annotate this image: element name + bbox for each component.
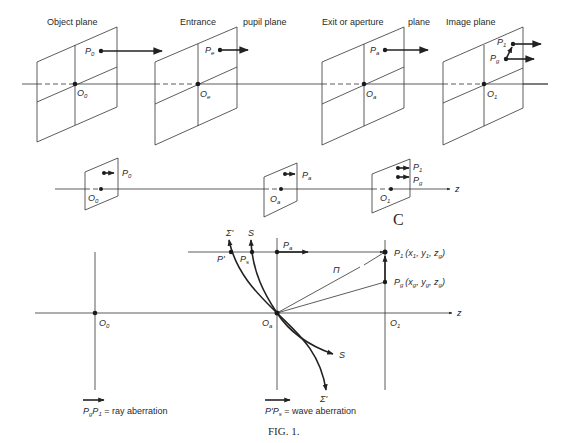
entrance-pupil-plane: Entrance pupil plane Pe Oe xyxy=(155,17,287,145)
p-prime-dot xyxy=(229,250,233,254)
svg-text:Pa: Pa xyxy=(283,240,293,251)
svg-text:O0: O0 xyxy=(99,318,110,329)
small-aperture-plane: Pa Oa xyxy=(264,163,312,217)
p1-dot xyxy=(383,250,388,255)
p-prime-label: P' xyxy=(217,254,225,264)
s-top-label: S xyxy=(248,228,254,238)
oa-dot xyxy=(275,311,280,316)
pg-dot xyxy=(383,280,387,284)
wave-aberration-legend: P'Ps = wave aberration xyxy=(265,406,356,417)
svg-text:O1: O1 xyxy=(390,318,400,329)
small-object-plane: P0 O0 xyxy=(85,158,132,210)
bottom-diagram: z Σ' S S Σ' Π P' Ps Pa P1(x1, xyxy=(35,228,462,404)
small-image-plane: P1 Pg O1 xyxy=(372,159,423,213)
svg-text:P1: P1 xyxy=(413,162,422,173)
ray-aberration-legend: PgP1 = ray aberration xyxy=(83,406,168,417)
figure-caption: FIG. 1. xyxy=(268,425,300,437)
plane-title: Exit or aperture xyxy=(322,17,384,27)
stray-mark: C xyxy=(393,211,404,228)
middle-row: z P0 O0 Pa Oa xyxy=(55,158,460,228)
svg-text:Ps: Ps xyxy=(240,254,249,265)
svg-text:P0: P0 xyxy=(122,168,132,179)
p1-label: P1(x1, y1, zg) xyxy=(394,248,445,259)
pi-label: Π xyxy=(333,265,340,275)
plane-title: Object plane xyxy=(47,17,98,27)
ray-to-pg xyxy=(277,282,385,313)
ray-pi-b xyxy=(364,252,385,265)
pg-label: Pg(xg, yg, zg) xyxy=(394,277,445,288)
image-plane: Image plane P1 Pg O1 xyxy=(443,17,548,145)
svg-text:Oa: Oa xyxy=(262,318,273,329)
optics-aberration-diagram: Object plane P0 O0 Entrance pupil plane … xyxy=(0,0,569,443)
wavefront-curve xyxy=(251,240,333,354)
z-axis-label: z xyxy=(454,184,460,194)
top-row: Object plane P0 O0 Entrance pupil plane … xyxy=(22,17,548,145)
ray-pi-a xyxy=(277,267,360,313)
ps-dot xyxy=(250,250,254,254)
plane-title-cont: pupil plane xyxy=(243,17,287,27)
object-plane: Object plane P0 O0 xyxy=(37,17,162,142)
plane-title-cont: plane xyxy=(408,17,430,27)
s-bottom-label: S xyxy=(339,350,345,360)
o0-dot xyxy=(93,311,98,316)
svg-text:Pa: Pa xyxy=(302,170,312,181)
svg-text:Pg: Pg xyxy=(413,175,423,186)
legend: PgP1 = ray aberration P'Ps = wave aberra… xyxy=(83,400,356,437)
plane-title: Entrance xyxy=(180,17,216,27)
sigma-top-label: Σ' xyxy=(225,228,233,238)
plane-title: Image plane xyxy=(446,17,496,27)
z-axis-label: z xyxy=(456,308,462,318)
pa-dot xyxy=(275,250,279,254)
exit-aperture-plane: Exit or aperture plane Pa Oa xyxy=(322,17,430,145)
origin-dot xyxy=(73,82,78,87)
sigma-bottom-label: Σ' xyxy=(319,394,327,404)
